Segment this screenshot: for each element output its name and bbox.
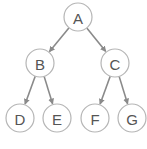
node-c: C (101, 49, 129, 77)
edge-a-c (87, 28, 106, 51)
node-b: B (26, 49, 54, 77)
node-d: D (6, 104, 34, 132)
edge-b-d (25, 76, 35, 104)
node-label: D (15, 111, 26, 128)
node-label: E (52, 111, 62, 128)
edge-c-f (100, 76, 110, 104)
node-label: B (35, 56, 45, 73)
node-e: E (43, 104, 71, 132)
node-label: C (110, 56, 121, 73)
node-label: G (126, 111, 138, 128)
node-label: F (90, 111, 99, 128)
node-a: A (64, 3, 92, 31)
node-f: F (81, 104, 109, 132)
tree-diagram: ABCDEFG (0, 0, 147, 149)
edge-c-g (119, 76, 127, 103)
edge-b-e (44, 76, 52, 103)
node-g: G (118, 104, 146, 132)
edge-a-b (50, 28, 70, 52)
tree-nodes: ABCDEFG (6, 3, 146, 132)
node-label: A (73, 10, 83, 27)
